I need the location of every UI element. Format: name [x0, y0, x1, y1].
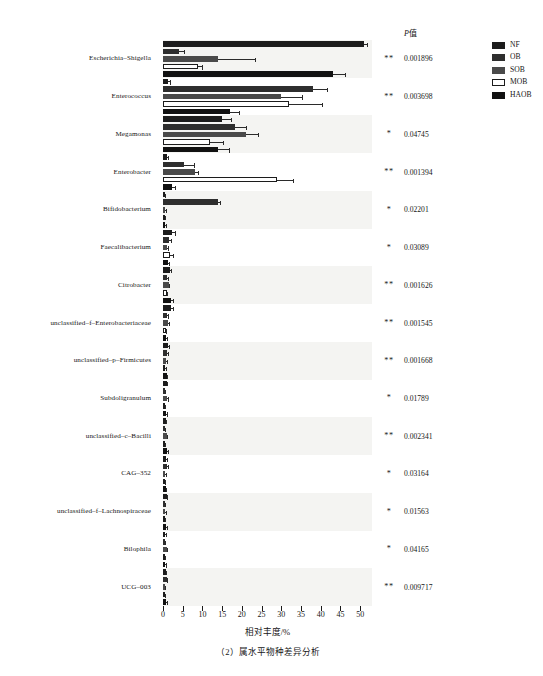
pvalue-header: P值	[404, 27, 417, 38]
taxon-label: Escherichia–Shigella	[89, 54, 151, 62]
bar-group-row	[163, 455, 372, 493]
bar-haob	[163, 147, 218, 153]
bar-mob	[163, 252, 170, 258]
significance-star: **	[378, 582, 400, 591]
pvalue-text: 0.04165	[404, 545, 468, 554]
bar-ob	[163, 124, 235, 130]
bars-container	[163, 304, 372, 342]
bars-container	[163, 153, 372, 191]
pvalue-text: 0.001668	[404, 356, 468, 365]
bar-group-row	[163, 380, 372, 418]
error-bar	[165, 225, 167, 226]
error-bar	[166, 572, 168, 573]
bar-group-row	[163, 115, 372, 153]
bars-container	[163, 191, 372, 229]
error-bar	[165, 406, 167, 407]
error-bar	[218, 149, 230, 150]
error-bar	[168, 323, 170, 324]
error-bar	[165, 519, 167, 520]
significance-star: *	[378, 469, 400, 478]
error-bar	[170, 270, 172, 271]
error-bar	[170, 255, 174, 256]
bars-container	[163, 380, 372, 418]
error-bar	[281, 97, 303, 98]
bar-group-row	[163, 417, 372, 455]
x-tick-label: 25	[252, 610, 272, 619]
error-bar	[235, 127, 247, 128]
pvalue-text: 0.001545	[404, 319, 468, 328]
error-bar	[210, 142, 224, 143]
significance-star: **	[378, 356, 400, 365]
error-bar	[167, 398, 169, 399]
taxon-label: CAG–352	[121, 469, 151, 477]
bar-group-row	[163, 342, 372, 380]
legend-label: NF	[510, 40, 520, 49]
significance-star: *	[378, 393, 400, 402]
x-tick-label: 35	[291, 610, 311, 619]
bar-group-row	[163, 229, 372, 267]
bar-group-row	[163, 304, 372, 342]
bar-ob	[163, 49, 179, 55]
x-tick-label: 40	[311, 610, 331, 619]
pvalue-text: 0.001896	[404, 54, 468, 63]
error-bar	[167, 580, 169, 581]
error-bar	[166, 421, 168, 422]
legend-swatch-icon	[492, 42, 505, 49]
pvalue-text: 0.01789	[404, 394, 468, 403]
error-bar	[195, 172, 200, 173]
error-bar	[166, 489, 168, 490]
legend-item-sob: SOB	[492, 65, 542, 77]
pvalue-text: 0.001626	[404, 281, 468, 290]
bar-fill	[163, 252, 170, 258]
error-bar	[165, 587, 167, 588]
bar-fill	[163, 94, 281, 100]
bar-fill	[163, 41, 364, 47]
bar-fill	[163, 116, 222, 122]
figure-caption: （2）属水平物种差异分析	[133, 645, 403, 657]
bar-fill	[163, 71, 333, 77]
error-bar	[165, 512, 167, 513]
error-bar	[179, 51, 185, 52]
legend-swatch-icon	[492, 54, 505, 61]
bar-nf	[163, 230, 172, 236]
pvalue-text: 0.03164	[404, 469, 468, 478]
plot-area	[163, 40, 372, 606]
bar-mob	[163, 64, 198, 70]
error-bar	[166, 527, 168, 528]
figure-panel: Escherichia–ShigellaEnterococcusMegamona…	[0, 0, 543, 676]
error-bar	[165, 217, 167, 218]
bar-fill	[163, 132, 246, 138]
bars-container	[163, 417, 372, 455]
significance-star: *	[378, 205, 400, 214]
error-bar	[165, 542, 167, 543]
significance-star: *	[378, 129, 400, 138]
error-bar	[167, 383, 169, 384]
bar-ob	[163, 86, 313, 92]
pvalue-text: 0.009717	[404, 583, 468, 592]
bar-fill	[163, 109, 230, 115]
bars-container	[163, 40, 372, 78]
error-bar	[167, 278, 169, 279]
bar-haob	[163, 184, 172, 190]
bar-fill	[163, 64, 198, 70]
significance-star: *	[378, 544, 400, 553]
x-tick-label: 50	[350, 610, 370, 619]
error-bar	[218, 59, 255, 60]
significance-star: **	[378, 54, 400, 63]
pvalue-text: 0.002341	[404, 432, 468, 441]
bars-container	[163, 493, 372, 531]
bar-group-row	[163, 40, 372, 78]
error-bar	[364, 44, 368, 45]
error-bar	[167, 353, 169, 354]
error-bar	[165, 444, 167, 445]
significance-star: **	[378, 431, 400, 440]
pvalue-text: 0.02201	[404, 205, 468, 214]
x-tick-label: 10	[192, 610, 212, 619]
bar-fill	[163, 230, 172, 236]
error-bar	[165, 534, 167, 535]
bar-fill	[163, 101, 289, 107]
x-tick-label: 30	[271, 610, 291, 619]
error-bar	[166, 338, 168, 339]
error-bar	[165, 429, 167, 430]
bar-fill	[163, 162, 184, 168]
